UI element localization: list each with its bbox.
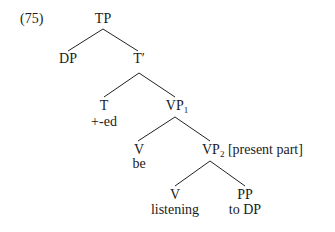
node-vp2: VP2 [present part] xyxy=(202,143,303,157)
branch-tp-tbar xyxy=(103,29,138,51)
node-vp1-label: VP xyxy=(166,98,184,113)
branch-tbar-vp1 xyxy=(139,73,175,97)
syntax-tree-branches xyxy=(0,0,335,232)
terminal-to-dp: to DP xyxy=(229,203,261,217)
node-vp2-label: VP xyxy=(202,142,220,157)
terminal-listening: listening xyxy=(151,203,199,217)
branch-tp-dp xyxy=(68,29,103,51)
example-number: (75) xyxy=(20,12,43,26)
node-vp1: VP1 xyxy=(166,99,188,113)
branch-vp1-vp2 xyxy=(175,117,210,141)
node-pp: PP xyxy=(237,188,253,202)
node-tp: TP xyxy=(95,12,111,26)
node-t: T xyxy=(100,99,109,113)
branch-tbar-t xyxy=(104,73,139,97)
node-t-bar: T′ xyxy=(133,52,145,66)
node-vp2-feature: [present part] xyxy=(228,142,303,157)
node-v-listening: V xyxy=(170,188,180,202)
node-vp2-subscript: 2 xyxy=(220,149,225,159)
node-dp: DP xyxy=(59,52,77,66)
node-v-be: V xyxy=(134,143,144,157)
terminal-ed: +-ed xyxy=(91,115,117,129)
branch-vp1-v_be xyxy=(138,117,175,141)
node-vp1-subscript: 1 xyxy=(184,105,189,115)
branch-vp2-pp xyxy=(210,161,245,186)
branch-vp2-v_listening xyxy=(175,161,210,186)
terminal-be: be xyxy=(132,157,145,171)
